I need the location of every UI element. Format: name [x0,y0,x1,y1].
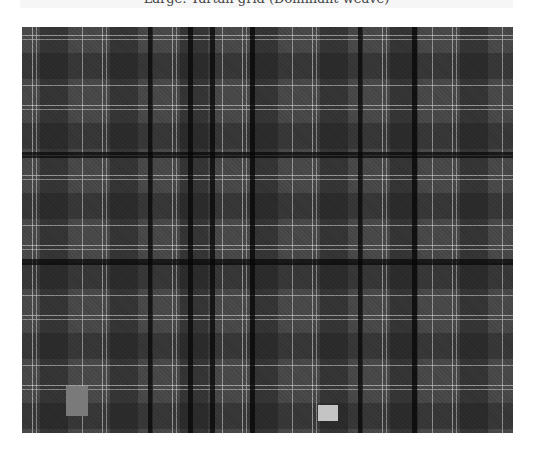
color-swatch [66,386,88,416]
color-swatch [318,405,338,421]
caption-text: Large: Tartan grid (Dominant weave) [144,0,390,6]
caption-bar: Large: Tartan grid (Dominant weave) [20,0,513,8]
swatch-layer [22,27,513,433]
tartan-pattern-canvas [22,27,513,433]
